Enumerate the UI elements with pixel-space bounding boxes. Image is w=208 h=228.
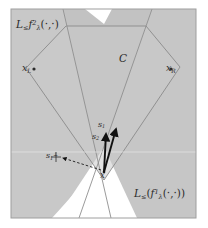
s1-subscript: 1: [102, 123, 105, 129]
s2-subscript: 2: [96, 135, 99, 141]
xl-subscript: L: [27, 68, 31, 74]
levelset-2-base: L: [16, 18, 23, 30]
label-point-x: x: [100, 171, 105, 180]
s1perp-superscript: ⊥: [53, 151, 58, 157]
levelset-1-args: (·,·): [163, 187, 181, 199]
label-vertex-xr: xR: [166, 63, 176, 75]
label-vector-s2: s2: [92, 133, 99, 141]
figure-container: L≤f2λ(·,·) L≤(f1λ(·,·)) xL xR C s1 s2 s1…: [0, 0, 208, 228]
label-vertex-xl: xL: [22, 63, 31, 75]
levelset-2-args: (·,·): [41, 18, 59, 30]
label-vector-s1: s1: [98, 121, 105, 129]
label-region-c: C: [119, 53, 127, 64]
label-levelset-f1: L≤(f1λ(·,·)): [134, 188, 185, 200]
label-vector-s1-perp: s1⊥: [46, 152, 58, 161]
levelset-1-close-paren: ): [181, 187, 185, 199]
levelset-1-base: L: [134, 187, 141, 199]
xr-subscript: R: [171, 68, 175, 74]
vertex-marker-xl: [32, 67, 35, 70]
label-levelset-f2: L≤f2λ(·,·): [16, 19, 59, 31]
